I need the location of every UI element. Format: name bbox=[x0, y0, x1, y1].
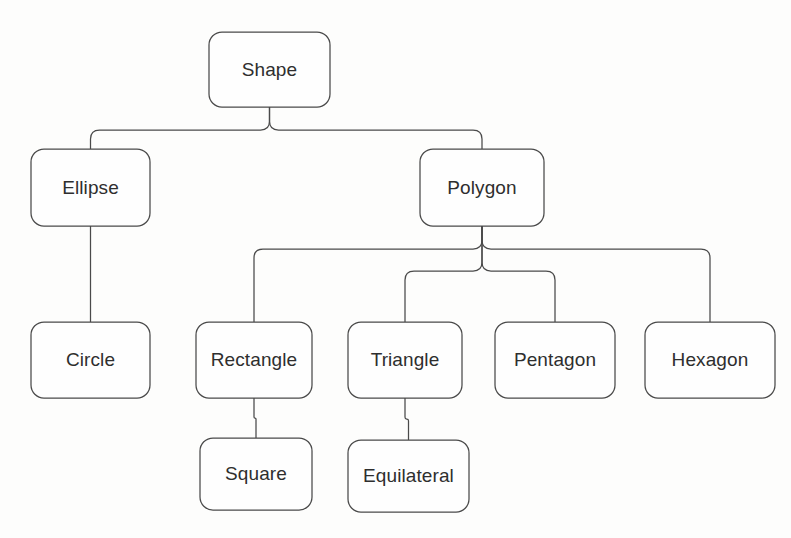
node-label-rectangle: Rectangle bbox=[211, 349, 297, 370]
node-label-polygon: Polygon bbox=[447, 177, 516, 198]
node-hexagon[interactable]: Hexagon bbox=[645, 322, 775, 398]
node-label-shape: Shape bbox=[242, 59, 297, 80]
node-square[interactable]: Square bbox=[200, 438, 312, 510]
node-label-ellipse: Ellipse bbox=[62, 177, 119, 198]
node-layer: ShapeEllipsePolygonCircleRectangleTriang… bbox=[31, 32, 775, 512]
node-label-triangle: Triangle bbox=[371, 349, 440, 370]
node-label-circle: Circle bbox=[66, 349, 115, 370]
node-equilateral[interactable]: Equilateral bbox=[348, 440, 469, 512]
node-label-pentagon: Pentagon bbox=[514, 349, 596, 370]
connector-polygon-to-pentagon bbox=[482, 226, 555, 322]
shape-hierarchy-diagram: ShapeEllipsePolygonCircleRectangleTriang… bbox=[0, 0, 791, 538]
connector-polygon-to-hexagon bbox=[482, 226, 710, 322]
node-pentagon[interactable]: Pentagon bbox=[495, 322, 615, 398]
node-rectangle[interactable]: Rectangle bbox=[196, 322, 312, 398]
connector-shape-to-ellipse bbox=[91, 107, 270, 149]
node-label-square: Square bbox=[225, 463, 287, 484]
connector-shape-to-polygon bbox=[270, 107, 483, 149]
node-triangle[interactable]: Triangle bbox=[348, 322, 462, 398]
connector-rectangle-to-square bbox=[254, 398, 256, 438]
node-polygon[interactable]: Polygon bbox=[420, 149, 544, 226]
node-label-equilateral: Equilateral bbox=[363, 465, 454, 486]
node-label-hexagon: Hexagon bbox=[672, 349, 749, 370]
connector-polygon-to-rectangle bbox=[254, 226, 482, 322]
node-circle[interactable]: Circle bbox=[31, 322, 150, 398]
node-ellipse[interactable]: Ellipse bbox=[31, 149, 150, 226]
connector-polygon-to-triangle bbox=[405, 226, 482, 322]
diagram-canvas: ShapeEllipsePolygonCircleRectangleTriang… bbox=[0, 0, 791, 538]
connector-triangle-to-equilateral bbox=[405, 398, 409, 440]
node-shape[interactable]: Shape bbox=[209, 32, 330, 107]
